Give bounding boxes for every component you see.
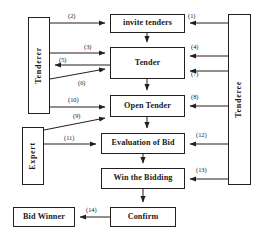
edge-label-8: (8)	[191, 93, 198, 100]
tender-process-diagram: Tenderer Tenderee Expert invite tenders …	[0, 0, 265, 240]
process-win-the-bidding-label: Win the Bidding	[113, 174, 172, 183]
arrow-9	[44, 118, 105, 130]
actor-tenderer-label: Tenderer	[35, 47, 43, 84]
actor-expert-label: Expert	[29, 142, 37, 170]
process-invite-tenders: invite tenders	[110, 14, 185, 33]
edge-label-10: (10)	[68, 96, 79, 103]
edge-label-4: (4)	[191, 43, 198, 50]
edge-label-12: (12)	[196, 131, 207, 138]
actor-tenderer: Tenderer	[28, 17, 50, 114]
edge-label-14: (14)	[86, 206, 97, 213]
process-confirm: Confirm	[110, 207, 176, 227]
edge-label-9: (9)	[73, 112, 80, 119]
actor-expert: Expert	[22, 127, 44, 185]
process-open-tender-label: Open Tender	[124, 102, 171, 111]
edge-label-6: (6)	[78, 79, 85, 86]
process-confirm-label: Confirm	[128, 213, 159, 222]
process-evaluation-of-bid: Evaluation of Bid	[101, 133, 185, 154]
edge-label-1: (1)	[188, 12, 195, 19]
process-invite-tenders-label: invite tenders	[123, 19, 172, 28]
edge-label-5: (5)	[59, 56, 66, 63]
process-tender: Tender	[110, 47, 185, 79]
arrow-6	[50, 69, 105, 79]
process-bid-winner-label: Bid Winner	[23, 213, 65, 222]
process-tender-label: Tender	[135, 59, 160, 68]
process-win-the-bidding: Win the Bidding	[101, 168, 185, 189]
actor-tenderee: Tenderee	[228, 14, 251, 185]
edge-label-3: (3)	[84, 43, 91, 50]
edge-label-7: (7)	[191, 70, 198, 77]
process-evaluation-of-bid-label: Evaluation of Bid	[111, 139, 174, 148]
edge-label-13: (13)	[196, 166, 207, 173]
actor-tenderee-label: Tenderee	[235, 81, 243, 118]
process-open-tender: Open Tender	[110, 95, 185, 117]
process-bid-winner: Bid Winner	[13, 207, 75, 227]
edge-label-2: (2)	[68, 12, 75, 19]
edge-label-11: (11)	[64, 134, 74, 141]
